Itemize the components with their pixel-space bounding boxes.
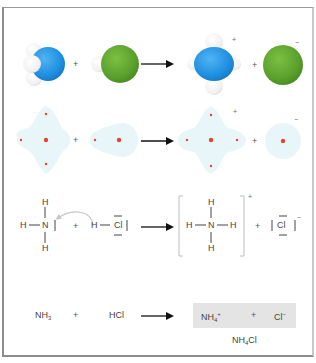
ammonia-space-filling-model bbox=[23, 43, 65, 86]
chloride-charge-row1: − bbox=[295, 39, 299, 46]
chloride-charge-row2: − bbox=[294, 116, 298, 123]
chloride-cl: Cl bbox=[277, 221, 286, 230]
chloride-charge-row3: − bbox=[297, 214, 301, 221]
plus-sign-row4: + bbox=[73, 311, 78, 320]
ammonia-n-center: N bbox=[42, 221, 49, 230]
plus-sign-row3: + bbox=[73, 222, 78, 231]
ammonia-density-cloud bbox=[16, 106, 70, 174]
ammonium-h-left: H bbox=[186, 221, 193, 230]
product-plus-sign-row1: + bbox=[252, 61, 257, 70]
product-plus-sign-row2: + bbox=[252, 137, 257, 146]
chloride-density-cloud bbox=[265, 123, 301, 159]
ammonium-h-bottom: H bbox=[208, 244, 215, 253]
ammonia-formula: NH3 bbox=[35, 311, 51, 321]
hcl-formula: HCl bbox=[109, 311, 124, 320]
ammonium-charge-row3: + bbox=[248, 193, 252, 200]
ammonia-h-left: H bbox=[20, 221, 27, 230]
hcl-h: H bbox=[91, 221, 98, 230]
ammonium-h-right: H bbox=[230, 221, 237, 230]
plus-sign-row2: + bbox=[73, 136, 78, 145]
ammonium-n-center: N bbox=[208, 221, 215, 230]
plus-sign-row1: + bbox=[73, 60, 78, 69]
chloride-formula: Cl− bbox=[274, 311, 286, 322]
hcl-density-cloud bbox=[90, 123, 138, 157]
chloride-space-filling-model bbox=[263, 45, 303, 85]
product-plus-sign-row3: + bbox=[255, 222, 260, 231]
ammonium-formula: NH4+ bbox=[201, 311, 221, 323]
product-plus-sign-row4: + bbox=[251, 311, 256, 320]
hcl-space-filling-model bbox=[91, 45, 139, 83]
ammonium-chloride-label: NH4Cl bbox=[232, 336, 257, 346]
ammonia-h-top: H bbox=[42, 198, 49, 207]
ammonia-h-bottom: H bbox=[42, 244, 49, 253]
ammonium-charge-row1: + bbox=[232, 36, 236, 43]
hcl-cl: Cl bbox=[114, 221, 123, 230]
ammonium-charge-row2: + bbox=[233, 108, 237, 115]
ammonium-h-top: H bbox=[208, 198, 215, 207]
ammonium-density-cloud bbox=[178, 106, 246, 174]
